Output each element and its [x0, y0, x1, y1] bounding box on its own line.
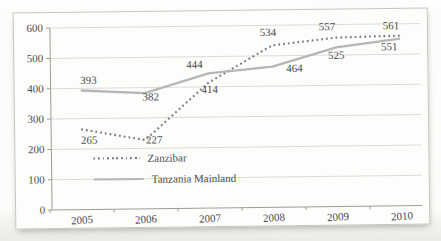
svg-text:2009: 2009 [327, 210, 350, 223]
svg-text:2006: 2006 [135, 212, 158, 225]
tanzania-mainland-solid-line-swatch [94, 178, 144, 181]
svg-text:2010: 2010 [391, 209, 414, 222]
scanned-page: 0100200300400500600200520062007200820092… [0, 0, 441, 241]
svg-text:2007: 2007 [199, 211, 222, 224]
svg-text:551: 551 [381, 40, 398, 52]
svg-text:382: 382 [142, 90, 159, 102]
svg-text:2005: 2005 [71, 213, 94, 226]
svg-text:500: 500 [27, 52, 44, 64]
svg-text:464: 464 [286, 62, 303, 74]
svg-text:0: 0 [40, 204, 46, 216]
legend-item-tanzania-mainland: Tanzania Mainland [94, 171, 237, 187]
legend-item-zanzibar: Zanzibar [93, 150, 236, 166]
svg-text:525: 525 [328, 49, 345, 61]
svg-text:100: 100 [28, 173, 45, 185]
svg-text:557: 557 [319, 20, 336, 32]
line-chart: 0100200300400500600200520062007200820092… [14, 8, 430, 228]
chart-legend: Zanzibar Tanzania Mainland [93, 150, 236, 194]
svg-text:300: 300 [27, 113, 44, 125]
svg-text:2008: 2008 [263, 211, 286, 224]
chart-frame: 0100200300400500600200520062007200820092… [13, 7, 431, 229]
svg-text:444: 444 [186, 58, 203, 70]
svg-text:414: 414 [201, 83, 218, 95]
svg-text:561: 561 [383, 19, 400, 31]
svg-text:265: 265 [81, 134, 98, 146]
legend-label-tanzania-mainland: Tanzania Mainland [152, 171, 237, 186]
svg-text:227: 227 [146, 133, 163, 145]
svg-text:534: 534 [260, 26, 277, 38]
legend-label-zanzibar: Zanzibar [147, 150, 186, 164]
svg-text:400: 400 [27, 82, 44, 94]
zanzibar-dotted-line-swatch [93, 157, 139, 160]
svg-text:393: 393 [80, 74, 97, 86]
svg-text:200: 200 [28, 143, 45, 155]
svg-text:600: 600 [26, 22, 43, 34]
